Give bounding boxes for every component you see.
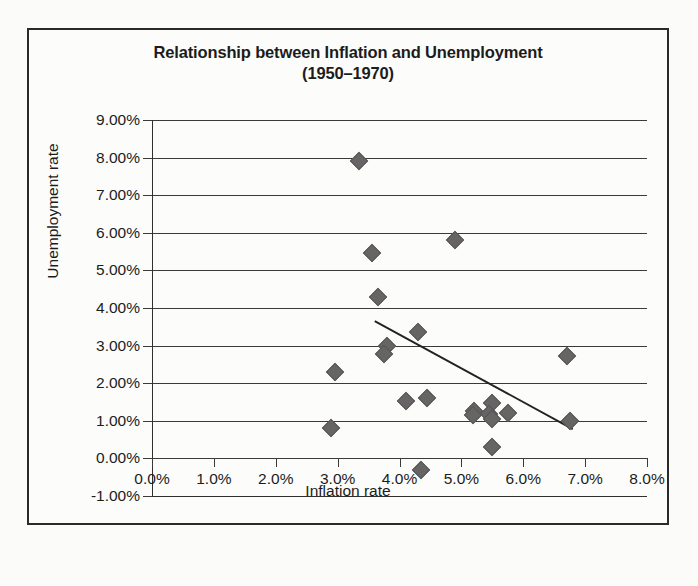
x-tick-1 — [214, 458, 215, 467]
x-tick-label-5: 5.0% — [444, 470, 479, 488]
x-tick-label-3: 3.0% — [320, 470, 355, 488]
y-tick-8 — [143, 421, 152, 422]
y-tick-label-7: 2.00% — [96, 374, 140, 392]
gridline-y-6 — [152, 346, 647, 347]
chart-title-line-1: Relationship between Inflation and Unemp… — [29, 42, 667, 63]
y-tick-label-4: 5.00% — [96, 261, 140, 279]
data-point[interactable] — [322, 419, 340, 437]
x-axis-line — [152, 496, 647, 497]
y-tick-2 — [143, 195, 152, 196]
gridline-y-5 — [152, 308, 647, 309]
x-tick-2 — [276, 458, 277, 467]
y-tick-1 — [143, 158, 152, 159]
gridline-y-2 — [152, 195, 647, 196]
chart-frame: Relationship between Inflation and Unemp… — [27, 28, 669, 525]
y-tick-label-5: 4.00% — [96, 299, 140, 317]
data-point[interactable] — [369, 288, 387, 306]
data-point[interactable] — [483, 438, 501, 456]
data-point[interactable] — [350, 152, 368, 170]
y-tick-label-3: 6.00% — [96, 224, 140, 242]
y-tick-label-10: -1.00% — [91, 487, 140, 505]
data-point[interactable] — [409, 323, 427, 341]
x-tick-0 — [152, 458, 153, 467]
x-tick-label-6: 6.0% — [506, 470, 541, 488]
gridline-y-0 — [152, 120, 647, 121]
chart-title-line-2: (1950–1970) — [29, 63, 667, 84]
x-tick-label-7: 7.0% — [567, 470, 602, 488]
x-tick-6 — [523, 458, 524, 467]
data-point[interactable] — [499, 403, 517, 421]
gridline-y-1 — [152, 158, 647, 159]
y-tick-4 — [143, 270, 152, 271]
y-tick-label-9: 0.00% — [96, 449, 140, 467]
x-tick-4 — [400, 458, 401, 467]
x-tick-label-1: 1.0% — [196, 470, 231, 488]
page-background: Relationship between Inflation and Unemp… — [0, 0, 698, 586]
x-tick-5 — [461, 458, 462, 467]
data-point[interactable] — [557, 347, 575, 365]
data-point[interactable] — [362, 244, 380, 262]
x-tick-label-8: 8.0% — [629, 470, 664, 488]
y-tick-3 — [143, 233, 152, 234]
x-tick-label-0: 0.0% — [134, 470, 169, 488]
x-tick-label-2: 2.0% — [258, 470, 293, 488]
y-tick-label-8: 1.00% — [96, 412, 140, 430]
data-point[interactable] — [325, 363, 343, 381]
y-tick-label-2: 7.00% — [96, 186, 140, 204]
y-tick-0 — [143, 120, 152, 121]
y-axis-line — [152, 120, 153, 496]
y-tick-label-6: 3.00% — [96, 337, 140, 355]
gridline-y-7 — [152, 383, 647, 384]
y-tick-label-1: 8.00% — [96, 149, 140, 167]
gridline-y-4 — [152, 270, 647, 271]
y-axis-title: Unemployment rate — [44, 61, 62, 361]
x-tick-8 — [647, 458, 648, 467]
data-point[interactable] — [396, 392, 414, 410]
x-tick-label-4: 4.0% — [382, 470, 417, 488]
y-tick-6 — [143, 346, 152, 347]
plot-area: 9.00%8.00%7.00%6.00%5.00%4.00%3.00%2.00%… — [152, 120, 647, 496]
data-point[interactable] — [418, 389, 436, 407]
data-point[interactable] — [560, 412, 578, 430]
x-tick-7 — [585, 458, 586, 467]
gridline-y-3 — [152, 233, 647, 234]
y-tick-5 — [143, 308, 152, 309]
y-tick-7 — [143, 383, 152, 384]
chart-title: Relationship between Inflation and Unemp… — [29, 42, 667, 85]
y-tick-9 — [143, 458, 152, 459]
y-tick-10 — [143, 496, 152, 497]
y-tick-label-0: 9.00% — [96, 111, 140, 129]
x-tick-3 — [338, 458, 339, 467]
